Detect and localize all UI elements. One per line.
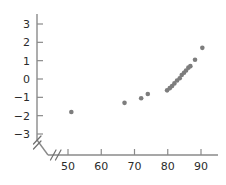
data-point-series <box>69 46 205 115</box>
data-point-1 <box>122 101 127 106</box>
y-tick-label-6: 3 <box>23 18 30 31</box>
data-point-16 <box>200 46 205 51</box>
x-axis-ticks: 5060708090 <box>61 149 208 173</box>
plot-canvas: −3−2−10123 5060708090 <box>0 0 226 185</box>
y-tick-label-0: −3 <box>14 128 30 141</box>
axis-break-marks <box>34 136 62 160</box>
axes-group <box>37 14 218 155</box>
y-tick-label-1: −2 <box>14 110 30 123</box>
x-tick-label-1: 60 <box>94 160 108 173</box>
x-tick-label-0: 50 <box>61 160 75 173</box>
y-tick-label-4: 1 <box>23 55 30 68</box>
y-tick-label-3: 0 <box>23 73 30 86</box>
x-tick-label-3: 80 <box>161 160 175 173</box>
x-tick-label-2: 70 <box>128 160 142 173</box>
axis-corner-connector <box>37 140 48 155</box>
y-axis-ticks: −3−2−10123 <box>14 18 43 141</box>
scatter-chart: −3−2−10123 5060708090 <box>0 0 226 185</box>
y-tick-label-2: −1 <box>14 91 30 104</box>
data-point-2 <box>139 96 144 101</box>
data-point-14 <box>188 64 193 69</box>
data-point-3 <box>146 92 151 97</box>
data-point-15 <box>193 57 198 62</box>
data-point-0 <box>69 110 74 115</box>
x-tick-label-4: 90 <box>194 160 208 173</box>
y-tick-label-5: 2 <box>23 36 30 49</box>
